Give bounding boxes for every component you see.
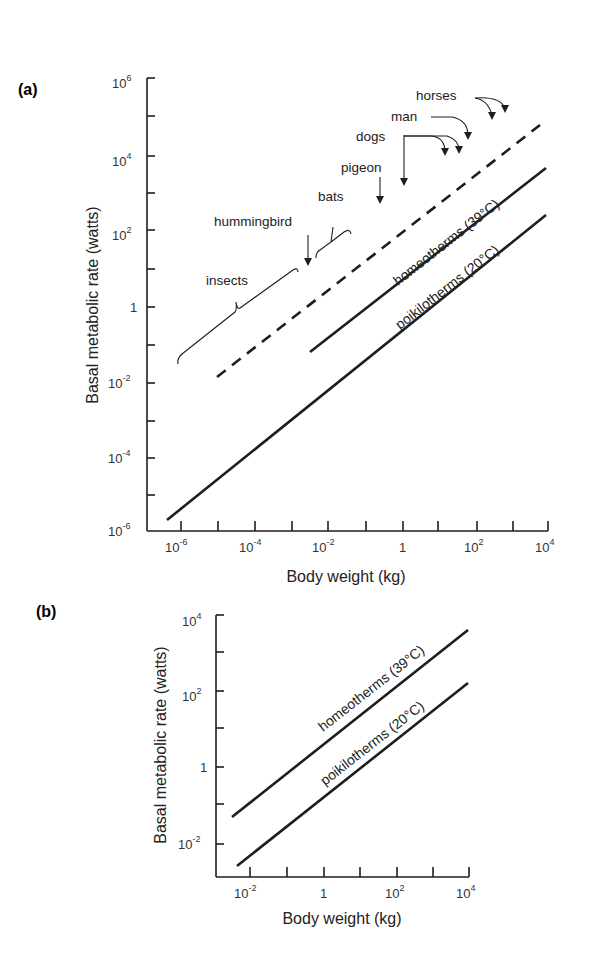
panel-a-x-ticklabels: 10-6 10-4 10-2 1 102 104 bbox=[165, 537, 554, 555]
svg-text:1: 1 bbox=[399, 540, 406, 555]
label-insects: insects bbox=[206, 273, 248, 288]
svg-text:10-2: 10-2 bbox=[312, 537, 334, 555]
panel-b-y-axis-title: Basal metabolic rate (watts) bbox=[152, 646, 169, 843]
label-pigeon: pigeon bbox=[341, 160, 382, 175]
panel-b-y-axis bbox=[216, 615, 224, 877]
panel-b-x-axis-title: Body weight (kg) bbox=[282, 910, 401, 927]
label-hummingbird: hummingbird bbox=[214, 214, 292, 229]
panel-b-homeotherm-line bbox=[232, 630, 468, 817]
svg-text:10-6: 10-6 bbox=[165, 537, 187, 555]
svg-text:10-2: 10-2 bbox=[178, 834, 200, 852]
svg-text:104: 104 bbox=[112, 151, 131, 169]
svg-text:10-2: 10-2 bbox=[234, 883, 256, 901]
panel-a-arrowheads bbox=[304, 105, 509, 266]
svg-text:102: 102 bbox=[112, 225, 131, 243]
svg-text:104: 104 bbox=[182, 611, 201, 629]
panel-a-y-axis bbox=[147, 78, 155, 531]
svg-text:102: 102 bbox=[385, 883, 404, 901]
svg-text:106: 106 bbox=[112, 73, 131, 91]
svg-text:1: 1 bbox=[130, 300, 137, 315]
panel-b-label: (b) bbox=[36, 603, 56, 620]
svg-text:102: 102 bbox=[182, 686, 201, 704]
panel-a-y-ticklabels: 106 104 102 1 10-2 10-4 10-6 bbox=[108, 73, 137, 539]
svg-text:10-4: 10-4 bbox=[239, 537, 261, 555]
svg-text:102: 102 bbox=[464, 537, 483, 555]
panel-b-x-axis bbox=[216, 867, 469, 877]
svg-text:10-6: 10-6 bbox=[108, 521, 130, 539]
svg-text:10-2: 10-2 bbox=[108, 373, 130, 391]
svg-text:10-4: 10-4 bbox=[108, 448, 130, 466]
label-horses: horses bbox=[416, 88, 457, 103]
svg-text:1: 1 bbox=[320, 886, 327, 901]
svg-text:1: 1 bbox=[200, 760, 207, 775]
panel-a-label: (a) bbox=[18, 81, 38, 98]
panel-a-x-axis bbox=[147, 521, 548, 531]
panel-b-y-ticklabels: 104 102 1 10-2 bbox=[178, 611, 207, 852]
panel-a-homeotherm-label: homeotherms (39°C) bbox=[390, 196, 502, 289]
panel-a-x-axis-title: Body weight (kg) bbox=[286, 568, 405, 585]
panel-a-y-axis-title: Basal metabolic rate (watts) bbox=[84, 206, 101, 403]
svg-text:104: 104 bbox=[535, 537, 554, 555]
figure-canvas: (a) 106 104 102 1 10-2 10-4 10-6 Basal m… bbox=[0, 0, 594, 960]
label-man: man bbox=[391, 109, 417, 124]
label-bats: bats bbox=[318, 189, 344, 204]
svg-text:104: 104 bbox=[456, 883, 475, 901]
panel-b-x-ticklabels: 10-2 1 102 104 bbox=[234, 883, 475, 901]
panel-a-poikilotherm-label: poikilotherms (20°C) bbox=[392, 242, 502, 333]
label-dogs: dogs bbox=[356, 129, 386, 144]
